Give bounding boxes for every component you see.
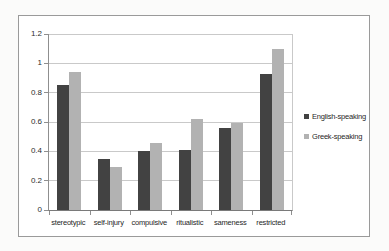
bar-english-speaking-compulsive [138, 151, 150, 210]
y-tick-1.2 [44, 34, 48, 35]
y-tick-label-1: 1 [20, 58, 42, 67]
bar-english-speaking-self-injury [98, 159, 110, 210]
bar-greek-speaking-restricted [272, 49, 284, 210]
bar-greek-speaking-stereotypic [69, 72, 81, 210]
x-category-label-self-injury: self-injury [89, 218, 130, 227]
x-category-label-compulsive: compulsive [129, 218, 170, 227]
y-tick-0.8 [44, 92, 48, 93]
gridline-1 [49, 63, 292, 64]
legend-label-greek-speaking: Greek-speaking [312, 132, 362, 141]
legend-label-english-speaking: English-speaking [312, 112, 366, 121]
bar-english-speaking-stereotypic [57, 85, 69, 210]
gridline-0.4 [49, 151, 292, 152]
y-tick-label-0: 0 [20, 205, 42, 214]
bar-greek-speaking-ritualistic [191, 119, 203, 210]
bar-english-speaking-restricted [260, 74, 272, 210]
x-tick-5 [252, 211, 253, 215]
y-tick-label-1.2: 1.2 [20, 29, 42, 38]
bar-english-speaking-ritualistic [179, 150, 191, 210]
legend-swatch-icon-english-speaking [304, 114, 309, 119]
x-category-label-restricted: restricted [251, 218, 292, 227]
legend: English-speakingGreek-speaking [304, 112, 366, 152]
y-tick-1 [44, 63, 48, 64]
gridline-0.2 [49, 180, 292, 181]
x-category-label-stereotypic: stereotypic [48, 218, 89, 227]
y-tick-0.6 [44, 122, 48, 123]
gridline-0.8 [49, 92, 292, 93]
y-tick-0.4 [44, 151, 48, 152]
x-category-label-ritualistic: ritualistic [170, 218, 211, 227]
x-tick-1 [90, 211, 91, 215]
x-tick-end [291, 211, 292, 215]
bar-english-speaking-sameness [219, 128, 231, 210]
x-tick-0 [49, 211, 50, 215]
y-tick-label-0.2: 0.2 [20, 176, 42, 185]
chart-frame: 00.20.40.60.811.2 stereotypicself-injury… [18, 15, 370, 237]
x-tick-2 [130, 211, 131, 215]
plot-area [48, 34, 293, 211]
x-tick-3 [171, 211, 172, 215]
y-tick-label-0.6: 0.6 [20, 117, 42, 126]
bar-greek-speaking-sameness [231, 123, 243, 210]
gridline-0.6 [49, 122, 292, 123]
bar-greek-speaking-self-injury [110, 167, 122, 210]
x-tick-4 [211, 211, 212, 215]
x-category-label-sameness: sameness [210, 218, 251, 227]
y-tick-0.2 [44, 180, 48, 181]
legend-swatch-icon-greek-speaking [304, 134, 309, 139]
bar-greek-speaking-compulsive [150, 143, 162, 210]
y-tick-label-0.4: 0.4 [20, 146, 42, 155]
chart-figure: 00.20.40.60.811.2 stereotypicself-injury… [0, 0, 389, 251]
legend-item-english-speaking: English-speaking [304, 112, 366, 121]
legend-item-greek-speaking: Greek-speaking [304, 132, 366, 141]
gridline-1.2 [49, 34, 292, 35]
y-tick-label-0.8: 0.8 [20, 88, 42, 97]
y-tick-0 [44, 210, 48, 211]
